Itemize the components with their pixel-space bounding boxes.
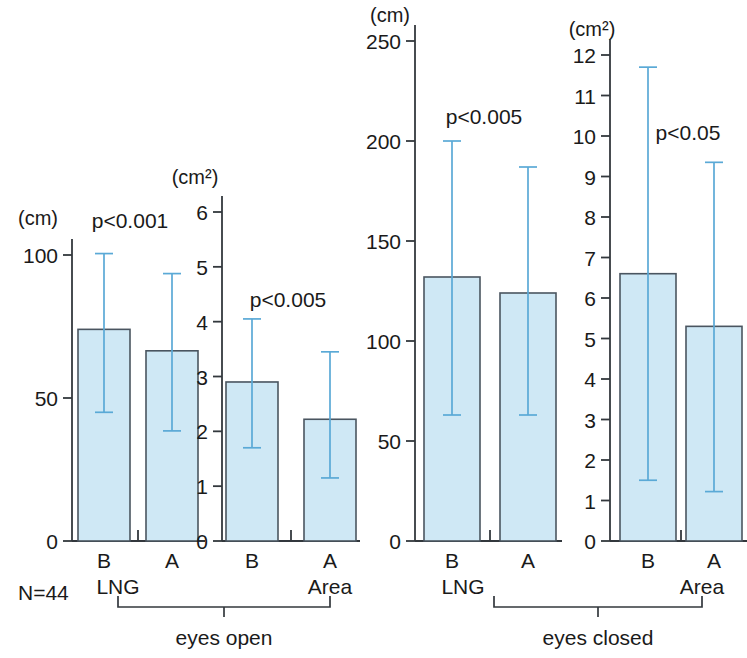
panel-area-eyes-closed: (cm²)0123456789101112p<0.05BAArea [569, 18, 747, 598]
y-tick-label-lng-eyes-open-50: 50 [35, 387, 58, 410]
measure-label-area-eyes-open: Area [308, 575, 353, 598]
p-value-area-eyes-closed: p<0.05 [656, 121, 721, 144]
category-label-area-eyes-open-A: A [323, 549, 337, 572]
y-tick-label-area-eyes-closed-10: 10 [573, 125, 596, 148]
measure-label-area-eyes-closed: Area [680, 575, 725, 598]
y-tick-label-lng-eyes-closed-50: 50 [378, 430, 401, 453]
y-tick-label-area-eyes-open-4: 4 [196, 311, 208, 334]
y-tick-label-area-eyes-closed-12: 12 [573, 44, 596, 67]
p-value-lng-eyes-open: p<0.001 [92, 209, 169, 232]
category-label-lng-eyes-closed-B: B [445, 549, 459, 572]
category-label-area-eyes-open-B: B [245, 549, 259, 572]
stabilometry-bar-chart-figure: (cm)050100p<0.001BALNG(cm²)0123456p<0.00… [0, 0, 747, 658]
measure-label-lng-eyes-closed: LNG [441, 575, 484, 598]
condition-bracket-eyes-closed: eyes closed [494, 596, 702, 649]
y-tick-label-area-eyes-open-0: 0 [196, 530, 208, 553]
y-tick-label-lng-eyes-open-100: 100 [23, 244, 58, 267]
y-tick-label-area-eyes-open-5: 5 [196, 256, 208, 279]
y-tick-label-area-eyes-open-6: 6 [196, 201, 208, 224]
y-tick-label-area-eyes-closed-2: 2 [584, 449, 596, 472]
condition-bracket-eyes-open: eyes open [118, 596, 330, 649]
y-tick-label-area-eyes-closed-9: 9 [584, 166, 596, 189]
unit-label-lng-eyes-closed: (cm) [370, 4, 410, 26]
panel-lng-eyes-closed: (cm)050100150200250p<0.005BALNG [366, 4, 562, 598]
y-tick-label-lng-eyes-closed-250: 250 [366, 30, 401, 53]
y-tick-label-lng-eyes-closed-100: 100 [366, 330, 401, 353]
unit-label-lng-eyes-open: (cm) [18, 207, 58, 229]
category-label-lng-eyes-open-B: B [97, 549, 111, 572]
y-tick-label-area-eyes-open-2: 2 [196, 420, 208, 443]
panel-area-eyes-open: (cm²)0123456p<0.005BAArea [172, 166, 360, 598]
condition-label-eyes-closed: eyes closed [543, 626, 654, 649]
y-tick-label-area-eyes-open-1: 1 [196, 475, 208, 498]
y-tick-label-lng-eyes-closed-200: 200 [366, 130, 401, 153]
bracket-path [118, 596, 330, 607]
y-tick-label-lng-eyes-open-0: 0 [46, 530, 58, 553]
category-label-area-eyes-closed-A: A [707, 549, 721, 572]
y-tick-label-area-eyes-closed-8: 8 [584, 206, 596, 229]
y-tick-label-area-eyes-closed-1: 1 [584, 490, 596, 513]
y-tick-label-area-eyes-closed-11: 11 [574, 85, 596, 108]
y-tick-label-lng-eyes-closed-0: 0 [389, 530, 401, 553]
y-tick-label-area-eyes-closed-4: 4 [584, 368, 596, 391]
category-label-lng-eyes-closed-A: A [521, 549, 535, 572]
y-tick-label-area-eyes-closed-0: 0 [584, 530, 596, 553]
p-value-lng-eyes-closed: p<0.005 [446, 105, 523, 128]
condition-label-eyes-open: eyes open [176, 626, 273, 649]
category-label-area-eyes-closed-B: B [641, 549, 655, 572]
sample-size-label: N=44 [18, 581, 69, 604]
p-value-area-eyes-open: p<0.005 [250, 288, 327, 311]
y-tick-label-area-eyes-open-3: 3 [196, 366, 208, 389]
y-tick-label-area-eyes-closed-5: 5 [584, 328, 596, 351]
y-tick-label-lng-eyes-closed-150: 150 [366, 230, 401, 253]
y-tick-label-area-eyes-closed-3: 3 [584, 409, 596, 432]
chart-canvas: (cm)050100p<0.001BALNG(cm²)0123456p<0.00… [0, 0, 747, 658]
unit-label-area-eyes-open: (cm²) [172, 166, 219, 188]
measure-label-lng-eyes-open: LNG [96, 575, 139, 598]
y-tick-label-area-eyes-closed-7: 7 [584, 247, 596, 270]
panel-lng-eyes-open: (cm)050100p<0.001BALNG [18, 207, 205, 598]
y-tick-label-area-eyes-closed-6: 6 [584, 287, 596, 310]
unit-label-area-eyes-closed: (cm²) [569, 18, 616, 40]
category-label-lng-eyes-open-A: A [165, 549, 179, 572]
bracket-path [494, 596, 702, 607]
